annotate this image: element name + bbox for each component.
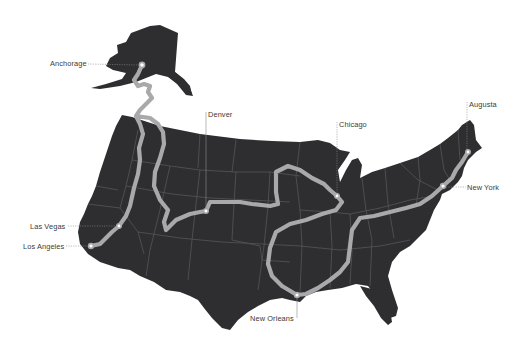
label-new-york: New York <box>467 183 499 192</box>
stop-los-angeles <box>89 244 94 249</box>
stop-denver <box>204 209 208 213</box>
label-chicago: Chicago <box>339 120 367 129</box>
stop-new-orleans <box>295 293 300 298</box>
label-las-vegas: Las Vegas <box>30 222 65 231</box>
stop-chicago <box>335 194 339 198</box>
stop-las-vegas <box>117 224 121 228</box>
label-denver: Denver <box>208 110 232 119</box>
stop-anchorage <box>139 62 144 67</box>
stop-augusta <box>466 150 470 154</box>
label-anchorage: Anchorage <box>50 59 87 68</box>
us-route-map <box>0 0 521 348</box>
label-augusta: Augusta <box>469 100 497 109</box>
stop-new-york <box>441 184 446 189</box>
label-los-angeles: Los Angeles <box>23 242 64 251</box>
label-new-orleans: New Orleans <box>250 314 294 323</box>
